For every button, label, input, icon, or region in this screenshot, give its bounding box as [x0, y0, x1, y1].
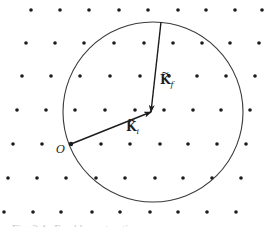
lattice-point [224, 74, 228, 78]
lattice-point [103, 108, 107, 112]
lattice-point [117, 8, 121, 12]
lattice-point [123, 176, 127, 180]
lattice-point [44, 108, 48, 112]
tilde-accent: ~ [161, 67, 169, 78]
wave-vectors [69, 22, 161, 146]
lattice-point [87, 8, 91, 12]
lattice-point [228, 41, 232, 45]
figure-caption-clipped: Fig. 2.4 Ewald construction ... ... [0, 221, 267, 227]
lattice-point [233, 8, 237, 12]
lattice-point [153, 176, 157, 180]
lattice-point [162, 108, 166, 112]
lattice-point [257, 41, 261, 45]
lattice-point [11, 142, 15, 146]
origin-point [69, 142, 73, 146]
ewald-sphere-circle [63, 22, 243, 202]
lattice-point [158, 142, 162, 146]
lattice-point [219, 108, 223, 112]
lattice-point [90, 210, 94, 214]
lattice-point [205, 210, 209, 214]
lattice-point [24, 41, 28, 45]
lattice-point [244, 142, 248, 146]
lattice-point [186, 142, 190, 146]
lattice-point [176, 210, 180, 214]
lattice-point [138, 74, 142, 78]
lattice-point [181, 176, 185, 180]
lattice-point [204, 8, 208, 12]
lattice-point [200, 41, 204, 45]
lattice-point [171, 41, 175, 45]
lattice-point [73, 108, 77, 112]
lattice-point [176, 8, 180, 12]
lattice-point [148, 210, 152, 214]
tilde-accent: ~ [127, 114, 135, 125]
lattice-point [2, 210, 6, 214]
lattice-point [94, 176, 98, 180]
lattice-point [20, 74, 24, 78]
lattice-point [248, 108, 252, 112]
lattice-point [260, 8, 264, 12]
lattice-point [53, 41, 57, 45]
vector-k-f-arrow [151, 22, 161, 112]
lattice-point [15, 108, 19, 112]
lattice-point [108, 74, 112, 78]
lattice-point [40, 142, 44, 146]
lattice-point [35, 176, 39, 180]
lattice-point [82, 41, 86, 45]
lattice-point [78, 74, 82, 78]
vector-k-i-arrow [71, 112, 151, 144]
lattice-point [253, 74, 257, 78]
origin-label: O [56, 143, 65, 156]
lattice-point [234, 210, 238, 214]
lattice-point [118, 210, 122, 214]
caption-text: Fig. 2.4 Ewald construction ... ... [12, 221, 267, 227]
lattice-point [142, 41, 146, 45]
lattice-point [128, 142, 132, 146]
lattice-point [59, 210, 63, 214]
lattice-point [29, 8, 33, 12]
lattice-point [112, 41, 116, 45]
lattice-point [99, 142, 103, 146]
lattice-point [58, 8, 62, 12]
lattice-point [215, 142, 219, 146]
lattice-point [64, 176, 68, 180]
lattice-point [133, 108, 137, 112]
lattice-point [6, 176, 10, 180]
lattice-point [146, 8, 150, 12]
lattice-point [49, 74, 53, 78]
reciprocal-lattice-points [2, 8, 264, 214]
lattice-point [239, 176, 243, 180]
lattice-point [191, 108, 195, 112]
lattice-point [31, 210, 35, 214]
lattice-point [195, 74, 199, 78]
